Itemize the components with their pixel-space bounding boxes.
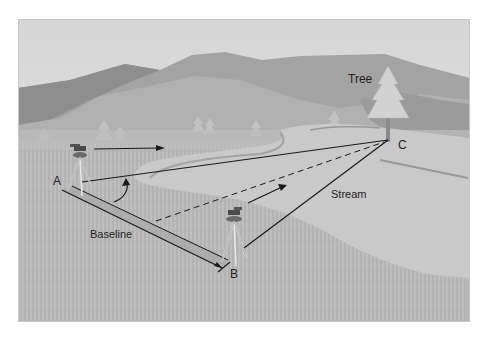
illustration-frame [18,19,470,322]
point-b-label: B [230,268,238,280]
baseline-label: Baseline [90,229,132,240]
tree-label: Tree [348,73,372,85]
stream-label: Stream [331,189,366,200]
landscape-scene [18,19,470,322]
point-c-label: C [398,139,407,151]
point-a-label: A [53,175,61,187]
